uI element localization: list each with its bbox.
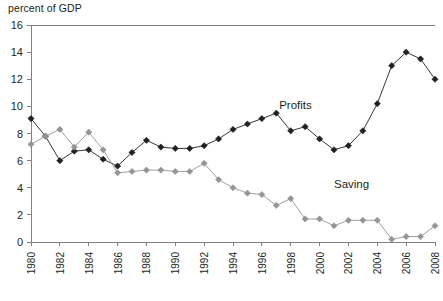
- data-point-marker: [100, 156, 106, 162]
- x-tick-label: 2002: [343, 252, 354, 275]
- y-tick-label: 0: [17, 236, 23, 248]
- data-point-marker: [360, 217, 366, 223]
- data-point-marker: [201, 143, 207, 149]
- data-point-marker: [158, 167, 164, 173]
- data-point-marker: [244, 190, 250, 196]
- data-point-marker: [403, 233, 409, 239]
- x-tick-label: 1998: [286, 252, 297, 275]
- series-label-profits: Profits: [279, 99, 312, 111]
- series-line-profits: [31, 52, 435, 166]
- data-point-marker: [215, 136, 221, 142]
- data-point-marker: [158, 144, 164, 150]
- data-point-marker: [374, 101, 380, 107]
- x-axis: 1980198219841986198819901992199419961998…: [26, 242, 441, 274]
- y-tick-label: 4: [17, 182, 23, 194]
- data-point-marker: [187, 145, 193, 151]
- series-profits: [28, 49, 438, 169]
- series-label-saving: Saving: [334, 178, 369, 190]
- data-point-marker: [288, 196, 294, 202]
- data-point-marker: [114, 170, 120, 176]
- x-tick-label: 1984: [84, 252, 95, 275]
- data-series-group: [28, 49, 438, 242]
- data-point-marker: [331, 223, 337, 229]
- x-tick-label: 1986: [113, 252, 124, 275]
- data-point-marker: [244, 121, 250, 127]
- x-tick-label: 2006: [401, 252, 412, 275]
- series-saving: [28, 126, 438, 242]
- data-point-marker: [172, 168, 178, 174]
- data-point-marker: [417, 56, 423, 62]
- data-point-marker: [302, 216, 308, 222]
- data-point-marker: [230, 185, 236, 191]
- data-point-marker: [259, 115, 265, 121]
- y-tick-label: 8: [17, 128, 23, 140]
- x-tick-label: 1992: [199, 252, 210, 275]
- x-tick-label: 1996: [257, 252, 268, 275]
- x-tick-label: 1994: [228, 252, 239, 275]
- data-point-marker: [230, 126, 236, 132]
- data-point-marker: [345, 217, 351, 223]
- data-point-marker: [172, 145, 178, 151]
- data-point-marker: [28, 141, 34, 147]
- data-point-marker: [129, 168, 135, 174]
- x-tick-label: 2004: [372, 252, 383, 275]
- data-point-marker: [57, 158, 63, 164]
- line-chart-plot: 0246810121416 19801982198419861988199019…: [0, 0, 443, 301]
- data-point-marker: [316, 216, 322, 222]
- data-point-marker: [187, 168, 193, 174]
- x-tick-label: 1988: [141, 252, 152, 275]
- y-tick-label: 12: [11, 73, 23, 85]
- y-axis: 0246810121416: [11, 19, 435, 248]
- x-tick-label: 2008: [430, 252, 441, 275]
- data-point-marker: [86, 147, 92, 153]
- x-tick-label: 2000: [315, 252, 326, 275]
- data-point-marker: [432, 76, 438, 82]
- series-annotations: ProfitsSaving: [279, 99, 369, 190]
- y-tick-label: 16: [11, 19, 23, 31]
- data-point-marker: [143, 167, 149, 173]
- y-tick-label: 10: [11, 100, 23, 112]
- x-tick-label: 1982: [55, 252, 66, 275]
- y-tick-label: 6: [17, 155, 23, 167]
- y-tick-label: 2: [17, 209, 23, 221]
- chart-container: percent of GDP 0246810121416 19801982198…: [0, 0, 443, 301]
- y-tick-label: 14: [11, 46, 23, 58]
- x-tick-label: 1990: [170, 252, 181, 275]
- x-tick-label: 1980: [26, 252, 37, 275]
